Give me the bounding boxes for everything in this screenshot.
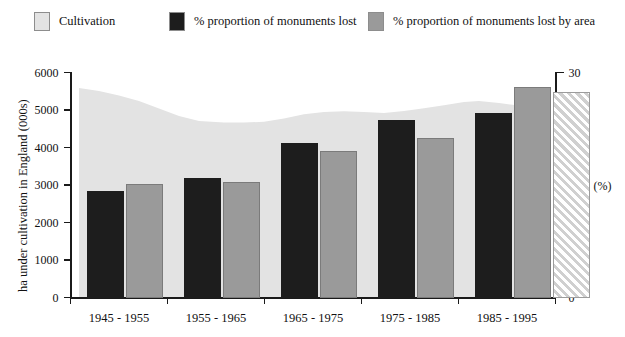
- legend-item-monuments-lost: % proportion of monuments lost: [169, 12, 357, 31]
- bar-monuments-lost-by-area: [417, 138, 454, 298]
- y-tick-label-right: 30: [569, 67, 581, 79]
- y-tick-label-left: 2000: [0, 217, 59, 229]
- bar-projected-hatched: [553, 92, 590, 298]
- y-tick-label-left: 3000: [0, 179, 59, 191]
- bar-monuments-lost-by-area: [126, 184, 163, 298]
- y-tick-label-left: 1000: [0, 254, 59, 266]
- x-tick: [361, 297, 362, 304]
- legend-label-monuments-lost: % proportion of monuments lost: [194, 15, 357, 28]
- y-tick-left: [64, 147, 71, 148]
- y-tick-right: [556, 72, 564, 73]
- legend-item-cultivation: Cultivation: [34, 12, 115, 31]
- x-tick: [167, 297, 168, 304]
- y-tick-left: [64, 222, 71, 223]
- y-tick-left: [64, 109, 71, 110]
- chart-page: Cultivation % proportion of monuments lo…: [0, 0, 625, 337]
- y-tick-left: [64, 259, 71, 260]
- plot-area: [79, 73, 547, 297]
- y-tick-label-left: 6000: [0, 67, 59, 79]
- legend-item-monuments-lost-by-area: % proportion of monuments lost by area: [368, 12, 595, 31]
- right-axis-unit-label: (%): [594, 179, 612, 194]
- bar-monuments-lost-by-area: [223, 182, 260, 298]
- bar-monuments-lost: [184, 178, 221, 298]
- bar-monuments-lost: [475, 113, 512, 298]
- bar-monuments-lost-by-area: [514, 87, 551, 299]
- y-tick-left: [64, 72, 71, 73]
- bar-monuments-lost-by-area: [320, 151, 357, 298]
- legend-swatch-cultivation: [34, 12, 50, 31]
- x-tick: [458, 297, 459, 304]
- legend-label-cultivation: Cultivation: [59, 15, 115, 28]
- legend-swatch-monuments-lost-by-area: [368, 12, 384, 31]
- chart-legend: Cultivation % proportion of monuments lo…: [0, 0, 625, 40]
- x-tick: [264, 297, 265, 304]
- legend-swatch-monuments-lost: [169, 12, 185, 31]
- y-tick-label-left: 5000: [0, 104, 59, 116]
- y-tick-label-left: 0: [0, 292, 59, 304]
- y-tick-label-left: 4000: [0, 142, 59, 154]
- bar-monuments-lost: [281, 143, 318, 298]
- x-axis-label: 1985 - 1995: [447, 312, 567, 325]
- x-tick: [70, 297, 71, 304]
- y-tick-left: [64, 184, 71, 185]
- bar-monuments-lost: [87, 191, 124, 298]
- legend-label-monuments-lost-by-area: % proportion of monuments lost by area: [393, 15, 595, 28]
- bar-monuments-lost: [378, 120, 415, 298]
